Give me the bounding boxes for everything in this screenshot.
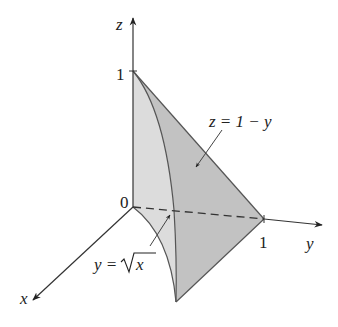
plane-equation-label: z = 1 − y [208,112,272,131]
y-axis-label: y [304,234,314,253]
svg-text:y =: y = [92,255,117,274]
origin-label: 0 [120,193,129,212]
y-axis [264,219,322,225]
x-axis [33,207,133,300]
z-axis-label: z [115,15,123,34]
y-tick-label: 1 [259,233,268,252]
z-tick-label: 1 [116,65,125,84]
3d-region-diagram: z y x 1 0 1 z = 1 − y y = x [0,0,338,327]
curve-equation-label: y = x [92,253,156,274]
x-axis-label: x [19,289,28,308]
sqrt-radicand: x [135,255,144,274]
